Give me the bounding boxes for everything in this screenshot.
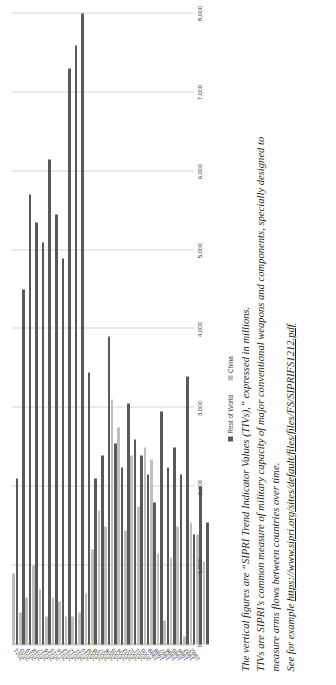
chart-value-axis-labels: 01,0002,0003,0004,0005,0006,0007,0008,00… <box>196 13 220 645</box>
bar-china-2002 <box>137 506 140 644</box>
bar-china-2007 <box>104 526 107 644</box>
bar-china-2001 <box>144 447 147 644</box>
rotated-page-stage: 2021202020192018201720162015201420132012… <box>0 0 336 685</box>
bar-china-1994 <box>190 522 193 644</box>
arms-transfers-bar-chart: 2021202020192018201720162015201420132012… <box>8 5 220 681</box>
bar-china-1996 <box>176 526 179 644</box>
caption-line-1: The vertical figures are “SIPRI Trend In… <box>238 21 253 671</box>
chart-legend: Rest of World China <box>227 356 234 441</box>
bar-china-2003 <box>130 455 133 644</box>
bar-china-2012 <box>71 616 74 644</box>
value-axis-tick-2000: 2,000 <box>196 479 203 494</box>
bar-china-2005 <box>117 427 120 644</box>
bar-china-2013 <box>65 616 68 644</box>
value-axis-tick-4000: 4,000 <box>196 321 203 336</box>
bar-china-1995 <box>183 636 186 644</box>
chart-category-axis-labels: 2021202020192018201720162015201420132012… <box>12 647 194 681</box>
value-axis-tick-5000: 5,000 <box>196 242 203 257</box>
bar-china-2000 <box>150 459 153 644</box>
bar-china-2004 <box>124 530 127 644</box>
bar-china-2008 <box>98 510 101 644</box>
bar-china-2006 <box>111 400 114 645</box>
bar-china-2020 <box>19 612 22 644</box>
bar-china-1998 <box>163 620 166 644</box>
bar-china-2019 <box>25 597 28 644</box>
value-axis-tick-1000: 1,000 <box>196 558 203 573</box>
caption-line-4: See for example https://www.sipri.org/si… <box>283 21 298 671</box>
bar-china-1997 <box>170 557 173 644</box>
bar-china-2015 <box>52 597 55 644</box>
chart-bar-rows <box>12 13 194 644</box>
bar-china-2016 <box>45 616 48 644</box>
legend-swatch-icon-rest-of-world <box>228 436 233 441</box>
legend-label-china: China <box>227 356 234 373</box>
value-axis-tick-7000: 7,000 <box>196 84 203 99</box>
legend-swatch-icon-china <box>228 375 233 380</box>
bar-china-2011 <box>78 612 81 644</box>
caption-link-prefix: See for example <box>285 601 296 671</box>
bar-china-2018 <box>32 565 35 644</box>
caption-line-3: measure arms flows between countries ove… <box>268 21 283 671</box>
bar-china-2010 <box>85 593 88 644</box>
value-axis-tick-8000: 8,000 <box>196 5 203 20</box>
bar-china-1999 <box>157 553 160 644</box>
legend-item-rest-of-world: Rest of World <box>227 394 234 441</box>
value-axis-tick-3000: 3,000 <box>196 400 203 415</box>
bar-china-2021 <box>12 573 15 644</box>
bar-china-2009 <box>91 549 94 644</box>
legend-label-rest-of-world: Rest of World <box>227 394 234 433</box>
sipri-fact-sheet-link[interactable]: https://www.sipri.org/sites/default/file… <box>285 324 296 601</box>
figure-caption: The vertical figures are “SIPRI Trend In… <box>238 21 298 671</box>
chart-plot-area <box>12 13 194 645</box>
bar-china-2017 <box>39 589 42 644</box>
value-axis-tick-0: 0 <box>196 643 203 646</box>
value-axis-tick-6000: 6,000 <box>196 163 203 178</box>
caption-line-2: TIVs are SIPRI’s common measure of milit… <box>253 21 268 671</box>
bar-china-2014 <box>58 601 61 644</box>
legend-item-china: China <box>227 356 234 381</box>
